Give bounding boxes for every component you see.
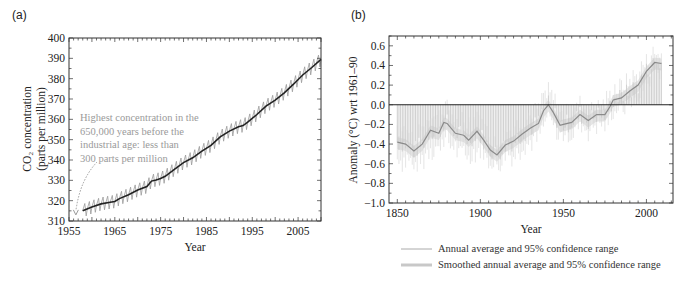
panel-label-a: (a)	[12, 8, 27, 22]
co2-x-tick-label: 1975	[149, 225, 172, 237]
co2-x-tick-label: 2005	[287, 225, 310, 237]
anomaly-x-tick-label: 1950	[552, 207, 575, 219]
co2-y-axis-title-line1: CO₂ concentration	[21, 86, 33, 172]
legend-item-smoothed: Smoothed annual average and 95% confiden…	[401, 259, 661, 270]
co2-annotation-line: 650,000 years before the	[80, 126, 184, 137]
co2-y-tick-label: 350	[48, 134, 66, 146]
co2-annotation-line: Highest concentration in the	[80, 112, 199, 123]
co2-annotation-line: 300 parts per million	[80, 153, 169, 164]
anomaly-y-tick-label: −1.0	[364, 197, 385, 209]
co2-y-tick-label: 310	[48, 215, 66, 227]
anomaly-y-tick-label: 0.2	[371, 79, 386, 91]
anomaly-plot-frame	[389, 36, 673, 203]
anomaly-y-tick-label: −0.6	[364, 158, 385, 170]
anomaly-y-tick-label: −0.4	[364, 138, 385, 150]
co2-y-tick-label: 370	[48, 93, 66, 105]
co2-annotation-arrow	[76, 162, 97, 211]
anomaly-y-tick-label: −0.2	[364, 118, 385, 130]
panel-label-b: (b)	[351, 8, 366, 22]
co2-x-axis-title: Year	[184, 241, 205, 253]
co2-y-tick-label: 340	[48, 154, 66, 166]
co2-y-tick-label: 400	[48, 32, 66, 44]
co2-chart-panel: (a) 195519651975198519952005310320330340…	[12, 8, 321, 253]
anomaly-x-tick-label: 2000	[635, 207, 658, 219]
co2-x-tick-label: 1985	[195, 225, 218, 237]
figure: (a) 195519651975198519952005310320330340…	[0, 0, 688, 284]
anomaly-x-axis-title: Year	[520, 223, 541, 235]
anomaly-y-axis-title: Anomaly (°C) wrt 1961–90	[347, 56, 360, 183]
legend-label-annual: Annual average and 95% confidence range	[438, 243, 619, 254]
legend-label-smoothed: Smoothed annual average and 95% confiden…	[438, 259, 661, 270]
anomaly-x-tick-label: 1850	[386, 207, 409, 219]
co2-annotation-line: industrial age: less than	[80, 139, 180, 150]
anomaly-y-tick-label: 0.0	[371, 99, 386, 111]
legend-item-annual: Annual average and 95% confidence range	[401, 243, 619, 254]
arrowhead-icon	[73, 210, 78, 215]
anomaly-data-layer	[389, 47, 673, 172]
anomaly-y-tick-label: 0.4	[371, 59, 386, 71]
co2-y-tick-label: 390	[48, 52, 66, 64]
anomaly-x-tick-label: 1900	[469, 207, 492, 219]
co2-y-axis-title: CO₂ concentration (parts per million)	[21, 86, 48, 172]
temperature-anomaly-panel: (b) 1850190019502000−1.0−0.8−0.6−0.4−0.2…	[347, 8, 673, 270]
co2-y-tick-label: 330	[48, 174, 66, 186]
co2-y-axis-title-line2: (parts per million)	[35, 87, 48, 171]
co2-y-tick-label: 360	[48, 113, 66, 125]
anomaly-y-tick-label: 0.6	[371, 40, 386, 52]
anomaly-legend: Annual average and 95% confidence range …	[401, 243, 661, 270]
co2-annotation: Highest concentration in the650,000 year…	[73, 112, 199, 215]
co2-x-tick-label: 1995	[241, 225, 264, 237]
co2-x-tick-label: 1965	[103, 225, 126, 237]
anomaly-y-tick-label: −0.8	[364, 177, 385, 189]
co2-y-tick-label: 380	[48, 73, 66, 85]
co2-y-tick-label: 320	[48, 195, 66, 207]
